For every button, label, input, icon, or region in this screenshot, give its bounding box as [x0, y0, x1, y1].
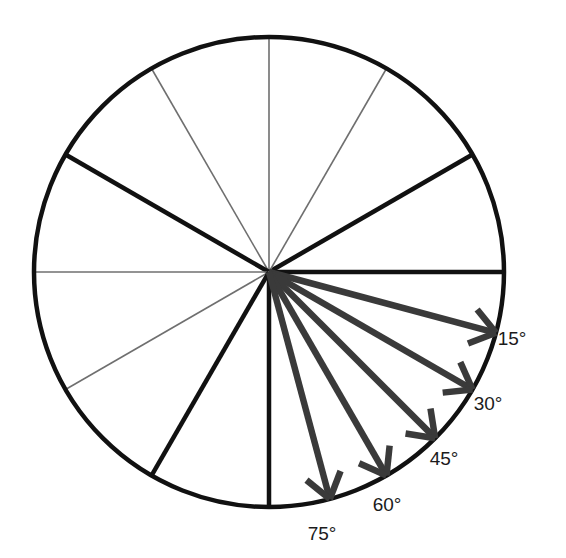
- angle-arrows-group: [269, 272, 496, 499]
- arrow-45deg-head-barb-2: [406, 433, 436, 438]
- ray-30deg: [269, 155, 473, 273]
- arrow-15deg-label: 15°: [498, 328, 527, 349]
- ray-60deg: [269, 68, 387, 272]
- angle-diagram-svg: 15°30°45°60°75°: [0, 0, 566, 558]
- ray-120deg: [152, 68, 270, 272]
- arrow-45deg-label: 45°: [430, 448, 459, 469]
- ray-240deg: [152, 272, 270, 476]
- angle-diagram-figure: 15°30°45°60°75°: [0, 0, 566, 558]
- arrow-45deg-head-barb-1: [430, 409, 435, 439]
- arrow-30deg-label: 30°: [474, 393, 503, 414]
- arrow-60deg-head-barb-1: [387, 446, 390, 476]
- arrow-75deg-label: 75°: [308, 523, 337, 544]
- arrow-60deg-label: 60°: [373, 494, 402, 515]
- ray-210deg: [65, 272, 269, 390]
- ray-150deg: [65, 155, 269, 273]
- arrow-30deg-head-barb-2: [443, 390, 473, 393]
